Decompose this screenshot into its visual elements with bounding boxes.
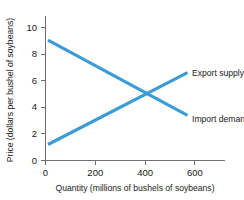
- series-line-import-demand: [48, 40, 188, 115]
- chart-figure: 0 2 4 6 8 10 0 200 400 600 Export supply…: [0, 0, 244, 200]
- x-tick-label-400: 400: [137, 167, 153, 178]
- x-axis-title: Quantity (millions of bushels of soybean…: [55, 183, 214, 193]
- y-axis-title: Price (dollars per bushel of soybeans): [5, 18, 15, 162]
- y-tick-label-6: 6: [32, 75, 37, 86]
- series-label-import-demand: Import demand: [192, 114, 244, 124]
- supply-demand-line-chart: 0 2 4 6 8 10 0 200 400 600 Export supply…: [0, 0, 244, 200]
- y-tick-marks: [41, 28, 46, 161]
- y-tick-label-2: 2: [32, 128, 37, 139]
- y-tick-label-4: 4: [32, 101, 37, 112]
- series-label-export-supply: Export supply: [192, 68, 244, 78]
- series-line-export-supply: [48, 73, 188, 145]
- y-tick-label-8: 8: [32, 48, 37, 59]
- x-tick-label-600: 600: [187, 167, 203, 178]
- x-tick-marks: [46, 161, 195, 166]
- y-tick-label-10: 10: [26, 22, 37, 33]
- y-tick-label-0: 0: [32, 155, 37, 166]
- x-tick-label-200: 200: [87, 167, 103, 178]
- x-tick-label-0: 0: [43, 167, 48, 178]
